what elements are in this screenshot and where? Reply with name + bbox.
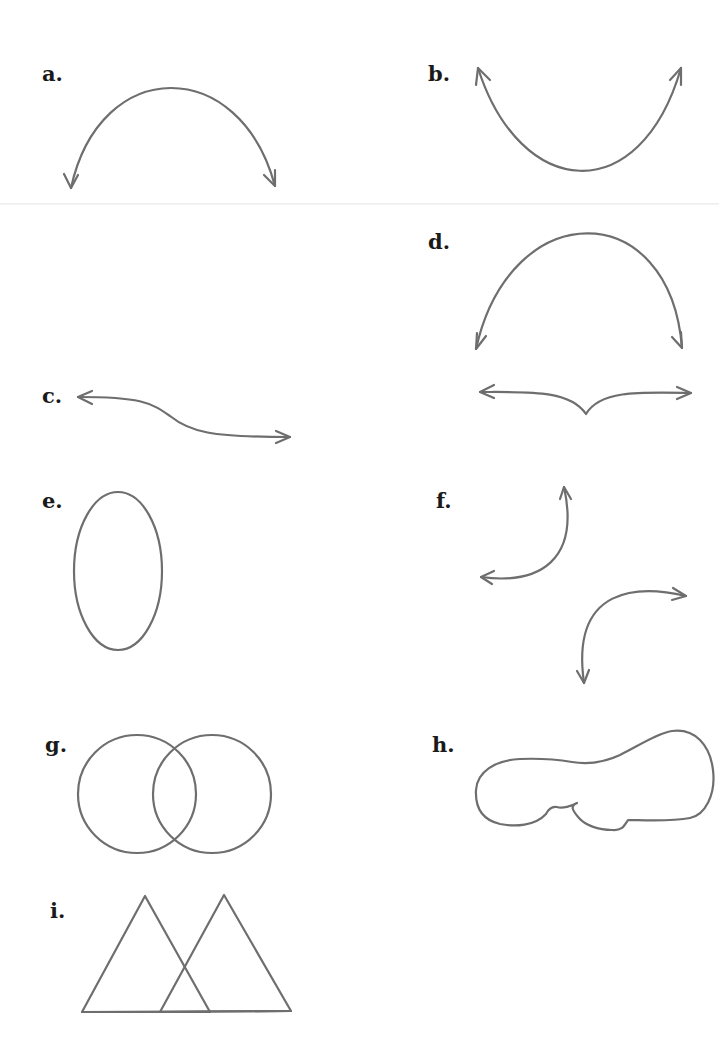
- figure-h-blob-icon: [476, 731, 714, 830]
- figure-g-overlapping-circles-icon: [78, 735, 271, 853]
- figure-f-opposing-curves-icon: [481, 487, 686, 683]
- figure-c-s-curve-icon: [78, 391, 290, 443]
- figure-b-arc-icon: [476, 68, 681, 171]
- figure-e-ellipse-icon: [74, 492, 162, 650]
- figure-i-overlapping-triangles-icon: [82, 895, 291, 1012]
- figure-a-arc-icon: [64, 88, 275, 188]
- figure-sheet: a. b. c. d. e. f. g. h. i.: [0, 0, 719, 1045]
- figure-d-arc-and-cusp-icon: [476, 233, 691, 414]
- figures-canvas: [0, 0, 719, 1045]
